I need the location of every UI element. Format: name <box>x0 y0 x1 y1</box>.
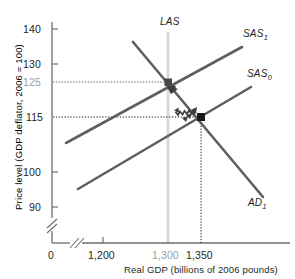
adjustment-arrow <box>166 85 197 123</box>
equilibrium-marker-125-1300 <box>165 79 173 87</box>
x-tick-label-1350: 1,350 <box>186 250 213 261</box>
y-tick-label-115: 115 <box>26 112 43 123</box>
y-axis-title-wrapper: Price level (GDP deflator, 2006 = 100) <box>8 22 26 232</box>
sas0-label-text: SAS <box>247 68 268 79</box>
sas1-label-subscript: 1 <box>264 33 268 42</box>
x-axis-title: Real GDP (billions of 2006 pounds) <box>124 265 278 275</box>
sas0-curve-label: SAS0 <box>247 69 272 82</box>
sas1-curve-label: SAS1 <box>243 29 268 42</box>
sas0-label-subscript: 0 <box>268 73 272 82</box>
y-axis-break-mark <box>47 219 57 228</box>
ad1-curve-label: AD1 <box>248 198 267 211</box>
sas1-label-text: SAS <box>243 28 264 39</box>
as-ad-chart-figure: 140 130 125 115 100 90 0 1,200 1,300 1,3… <box>0 0 295 279</box>
x-axis-break-mark <box>70 238 79 248</box>
ad1-label-text: AD <box>248 197 262 208</box>
sas1-curve <box>66 47 242 143</box>
y-axis-title: Price level (GDP deflator, 2006 = 100) <box>13 44 24 210</box>
chart-plot-area <box>0 0 295 279</box>
sas0-curve <box>78 87 251 189</box>
ad1-label-subscript: 1 <box>262 202 266 211</box>
las-curve-label: LAS <box>160 17 180 27</box>
x-tick-label-0: 0 <box>48 250 54 261</box>
x-tick-label-1300: 1,300 <box>152 250 179 261</box>
x-tick-label-1200: 1,200 <box>88 250 115 261</box>
equilibrium-marker-115-1350 <box>197 113 205 121</box>
y-tick-label-90: 90 <box>29 202 41 213</box>
